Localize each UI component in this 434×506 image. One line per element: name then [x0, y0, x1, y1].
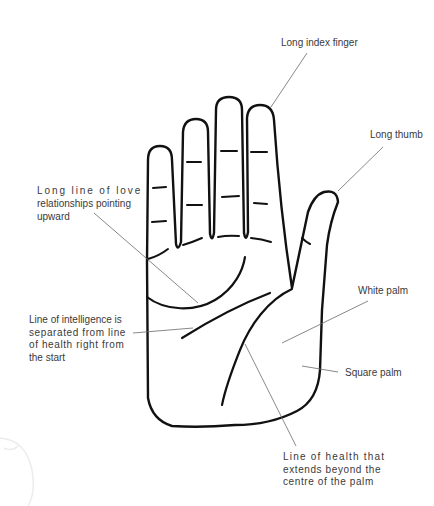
label-line: upward	[37, 210, 142, 223]
label-line: relationships pointing	[37, 197, 142, 210]
leader-index-finger	[271, 53, 307, 107]
label-line: White palm	[358, 285, 408, 298]
watermark-illustration	[0, 438, 33, 506]
intelligence-line	[182, 293, 270, 338]
label-line: extends beyond the	[283, 464, 385, 477]
label-line: Long index finger	[281, 37, 358, 50]
label-line: Square palm	[345, 367, 402, 380]
label-line: of health right from	[29, 339, 126, 352]
label-line: Long thumb	[370, 129, 423, 142]
label-health-line: Line of health that extends beyond the c…	[283, 451, 385, 489]
leader-lines	[94, 53, 383, 446]
label-line: Line of health that	[283, 451, 385, 464]
label-intelligence-line: Line of intelligence is separated from l…	[29, 314, 126, 364]
leader-white-palm	[282, 301, 368, 343]
label-index-finger: Long index finger	[281, 37, 358, 50]
hand-outline	[147, 97, 338, 427]
label-line: centre of the palm	[283, 476, 385, 489]
label-line: separated from line	[29, 327, 126, 340]
label-thumb: Long thumb	[370, 129, 423, 142]
leader-health-line	[245, 344, 296, 446]
label-white-palm: White palm	[358, 285, 408, 298]
leader-intelligence-line	[133, 328, 193, 333]
leader-thumb	[338, 147, 383, 191]
label-line: Line of intelligence is	[29, 314, 126, 327]
label-love-line: Long line of love relationships pointing…	[37, 184, 142, 223]
love-line	[147, 257, 245, 308]
label-line: Long line of love	[37, 184, 142, 197]
label-line: the start	[29, 352, 126, 365]
label-square-palm: Square palm	[345, 367, 402, 380]
hand-diagram	[0, 0, 434, 506]
health-line	[222, 289, 292, 405]
